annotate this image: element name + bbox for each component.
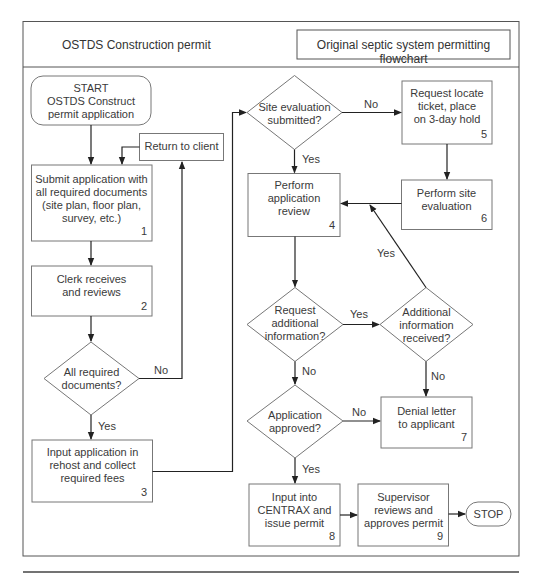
decision-request-line: additional bbox=[247, 317, 343, 330]
decision-docs-label: All required documents? bbox=[44, 366, 139, 392]
node-1-label: Submit application with all required doc… bbox=[31, 173, 152, 225]
node-4-number: 4 bbox=[329, 219, 335, 231]
node-9-line: approves permit bbox=[358, 517, 449, 530]
node-7-line: Denial letter bbox=[381, 405, 472, 418]
node-9-line: Supervisor bbox=[358, 491, 449, 504]
decision-received-line: information bbox=[380, 319, 473, 332]
edge-label-received-no: No bbox=[431, 370, 445, 382]
node-9-number: 9 bbox=[437, 530, 443, 542]
decision-approved-line: Application bbox=[247, 409, 343, 422]
edge-label-approved-yes: Yes bbox=[302, 463, 320, 475]
decision-site-label: Site evaluation submitted? bbox=[247, 101, 342, 127]
node-2-line: and reviews bbox=[31, 286, 152, 299]
node-7-label: Denial letter to applicant bbox=[381, 405, 472, 431]
node-9-label: Supervisor reviews and approves permit bbox=[358, 491, 449, 530]
edge-label-request-yes: Yes bbox=[350, 308, 368, 320]
edge-label-site-yes: Yes bbox=[302, 153, 320, 165]
decision-request-line: Request bbox=[247, 304, 343, 317]
node-6-line: evaluation bbox=[401, 200, 492, 213]
node-3-line: Input application in bbox=[32, 446, 153, 459]
node-6-number: 6 bbox=[481, 212, 487, 224]
node-3-label: Input application in rehost and collect … bbox=[32, 446, 153, 485]
node-1-number: 1 bbox=[141, 225, 147, 237]
start-line-1: START bbox=[31, 82, 151, 95]
node-4-line: review bbox=[248, 205, 340, 218]
chart-title-left: OSTDS Construction permit bbox=[62, 38, 211, 52]
node-7-number: 7 bbox=[461, 431, 467, 443]
start-line-2: OSTDS Construct bbox=[31, 95, 151, 108]
node-2-line: Clerk receives bbox=[31, 273, 152, 286]
node-2-number: 2 bbox=[141, 300, 147, 312]
node-8-number: 8 bbox=[329, 530, 335, 542]
decision-received-line: Additional bbox=[380, 306, 473, 319]
edge-3-to-site bbox=[153, 113, 247, 472]
node-1-line: survey, etc.) bbox=[31, 212, 152, 225]
decision-approved-label: Application approved? bbox=[247, 409, 343, 435]
node-5-line: on 3-day hold bbox=[402, 113, 492, 126]
start-line-3: permit application bbox=[31, 108, 151, 121]
node-8-line: CENTRAX and bbox=[249, 504, 340, 517]
node-5-line: Request locate bbox=[402, 87, 492, 100]
return-to-client-label: Return to client bbox=[139, 140, 224, 153]
decision-received-label: Additional information received? bbox=[380, 306, 473, 345]
edge-return-to-1 bbox=[122, 147, 140, 164]
node-2-label: Clerk receives and reviews bbox=[31, 273, 152, 299]
node-1-line: Submit application with bbox=[31, 173, 152, 186]
edge-label-site-no: No bbox=[364, 98, 378, 110]
node-9-line: reviews and bbox=[358, 504, 449, 517]
decision-docs-line: All required bbox=[44, 366, 139, 379]
node-5-line: ticket, place bbox=[402, 100, 492, 113]
node-6-label: Perform site evaluation bbox=[401, 187, 492, 213]
decision-request-label: Request additional information? bbox=[247, 304, 343, 343]
edge-label-approved-no: No bbox=[352, 406, 366, 418]
node-4-label: Perform application review bbox=[248, 179, 340, 218]
node-3-number: 3 bbox=[141, 486, 147, 498]
node-6-line: Perform site bbox=[401, 187, 492, 200]
node-4-line: application bbox=[248, 192, 340, 205]
edge-label-received-yes: Yes bbox=[377, 247, 395, 259]
decision-site-line: submitted? bbox=[247, 114, 342, 127]
decision-received-line: received? bbox=[380, 332, 473, 345]
edge-label-request-no: No bbox=[302, 365, 316, 377]
node-8-label: Input into CENTRAX and issue permit bbox=[249, 491, 340, 530]
edge-label-docs-no: No bbox=[154, 364, 168, 376]
node-4-line: Perform bbox=[248, 179, 340, 192]
node-5-label: Request locate ticket, place on 3-day ho… bbox=[402, 87, 492, 126]
node-1-line: all required documents bbox=[31, 186, 152, 199]
decision-docs-line: documents? bbox=[44, 379, 139, 392]
stop-label: STOP bbox=[466, 508, 511, 521]
decision-approved-line: approved? bbox=[247, 422, 343, 435]
node-5-number: 5 bbox=[481, 128, 487, 140]
node-8-line: Input into bbox=[249, 491, 340, 504]
node-3-line: required fees bbox=[32, 472, 153, 485]
edge-label-docs-yes: Yes bbox=[98, 420, 116, 432]
node-1-line: (site plan, floor plan, bbox=[31, 199, 152, 212]
decision-site-line: Site evaluation bbox=[247, 101, 342, 114]
node-8-line: issue permit bbox=[249, 517, 340, 530]
decision-request-line: information? bbox=[247, 330, 343, 343]
node-7-line: to applicant bbox=[381, 418, 472, 431]
start-label: START OSTDS Construct permit application bbox=[31, 82, 151, 121]
chart-title-right: Original septic system permitting flowch… bbox=[297, 38, 510, 66]
node-3-line: rehost and collect bbox=[32, 459, 153, 472]
